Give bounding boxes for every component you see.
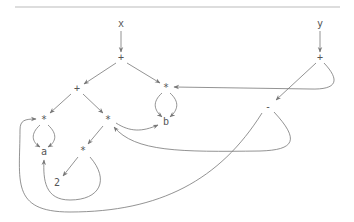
node-plus-inner: + <box>74 83 80 94</box>
edge-mulmid-b <box>116 123 158 130</box>
node-mul-mid: * <box>105 114 111 125</box>
nodes: x y + + + * * * * - a b 2 <box>41 18 323 188</box>
node-y: y <box>317 18 323 29</box>
node-minus: - <box>265 101 271 112</box>
edge-mulbottom-two <box>63 157 78 176</box>
node-mul-left: * <box>41 114 47 125</box>
node-mul-right: * <box>163 82 169 93</box>
edge-mulleft-a-left <box>33 125 40 147</box>
edge-plus-plusinner <box>84 63 116 84</box>
edge-mulright-b-right <box>170 93 177 117</box>
edge-plus-mulright <box>127 63 160 83</box>
edges <box>19 31 334 212</box>
node-mul-bottom: * <box>80 145 86 156</box>
expression-dag-diagram: x y + + + * * * * - a b 2 <box>0 0 354 222</box>
edge-plusinner-mulmid <box>83 94 103 113</box>
node-x: x <box>118 18 124 29</box>
edge-mulright-b-left <box>155 93 162 117</box>
edge-plusy-minus <box>276 63 316 100</box>
node-plus-y: + <box>317 52 323 63</box>
edge-mulleft-a-right <box>48 125 55 147</box>
node-plus-x: + <box>118 52 124 63</box>
node-a: a <box>41 146 47 157</box>
edge-minus-mulmid <box>114 112 290 151</box>
edge-plusinner-mulleft <box>50 94 71 113</box>
edge-mulmid-mulbottom <box>88 126 103 144</box>
node-b: b <box>163 116 169 127</box>
edge-plusy-mulright <box>174 63 334 89</box>
node-two: 2 <box>54 177 60 188</box>
edge-mulbottom-a <box>44 157 101 200</box>
